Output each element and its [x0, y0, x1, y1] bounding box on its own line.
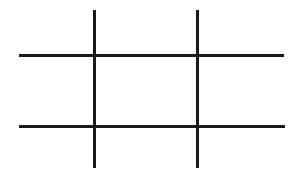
board-cell-9[interactable]: [199, 128, 284, 168]
board-cell-5[interactable]: [96, 57, 196, 125]
board-cell-3[interactable]: [199, 10, 284, 54]
tic-tac-toe-board: Tic-Tac-Toe Grid: [0, 0, 293, 175]
board-cell-7[interactable]: [19, 128, 93, 168]
board-cell-8[interactable]: [96, 128, 196, 168]
board-cell-2[interactable]: [96, 10, 196, 54]
board-cell-1[interactable]: [19, 10, 93, 54]
board-cell-4[interactable]: [19, 57, 93, 125]
board-cell-6[interactable]: [199, 57, 284, 125]
